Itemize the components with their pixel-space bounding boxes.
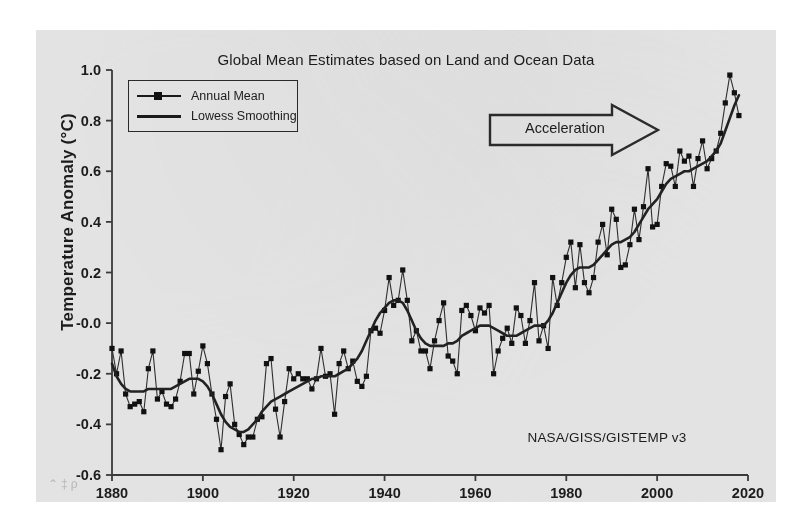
legend-label-lowess: Lowess Smoothing bbox=[191, 109, 297, 123]
legend-label-annual-mean: Annual Mean bbox=[191, 89, 265, 103]
svg-text:1900: 1900 bbox=[187, 485, 219, 501]
source-credit: NASA/GISS/GISTEMP v3 bbox=[482, 430, 732, 445]
svg-text:1.0: 1.0 bbox=[81, 62, 101, 78]
svg-text:0.8: 0.8 bbox=[81, 113, 101, 129]
svg-text:2020: 2020 bbox=[732, 485, 764, 501]
svg-text:-0.2: -0.2 bbox=[76, 366, 101, 382]
svg-text:0.2: 0.2 bbox=[81, 265, 101, 281]
svg-text:1980: 1980 bbox=[550, 485, 582, 501]
chart-legend: Annual Mean Lowess Smoothing bbox=[128, 80, 298, 132]
svg-text:1960: 1960 bbox=[459, 485, 491, 501]
svg-text:-0.4: -0.4 bbox=[76, 416, 101, 432]
watermark: ⌃‡ρ bbox=[48, 477, 81, 491]
legend-key-lowess-icon bbox=[137, 109, 181, 123]
acceleration-label: Acceleration bbox=[506, 120, 624, 136]
chart-panel: Global Mean Estimates based on Land and … bbox=[36, 30, 776, 502]
svg-text:2000: 2000 bbox=[641, 485, 673, 501]
legend-item-lowess: Lowess Smoothing bbox=[137, 108, 297, 124]
svg-text:1940: 1940 bbox=[368, 485, 400, 501]
svg-text:0.4: 0.4 bbox=[81, 214, 101, 230]
legend-item-annual-mean: Annual Mean bbox=[137, 88, 265, 104]
legend-key-annual-mean-icon bbox=[137, 89, 181, 103]
acceleration-annotation: Acceleration bbox=[488, 103, 660, 157]
svg-text:0.6: 0.6 bbox=[81, 163, 101, 179]
svg-text:-0.0: -0.0 bbox=[76, 315, 101, 331]
svg-text:1920: 1920 bbox=[278, 485, 310, 501]
svg-text:1880: 1880 bbox=[96, 485, 128, 501]
